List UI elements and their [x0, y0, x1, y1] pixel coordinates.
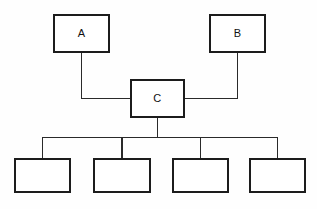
node-child-3-box[interactable] — [173, 159, 228, 192]
block-diagram: ABC — [0, 0, 317, 209]
node-c[interactable]: C — [131, 80, 184, 117]
node-layer: ABC — [15, 15, 305, 192]
node-child-1[interactable] — [15, 159, 70, 192]
edge-a-to-c — [82, 52, 132, 99]
node-child-3[interactable] — [173, 159, 228, 192]
node-child-2[interactable] — [94, 159, 150, 192]
node-a[interactable]: A — [54, 15, 109, 52]
node-child-1-box[interactable] — [15, 159, 70, 192]
diagram-canvas: ABC — [0, 0, 317, 209]
node-child-4-box[interactable] — [250, 159, 305, 192]
node-child-4[interactable] — [250, 159, 305, 192]
node-b[interactable]: B — [210, 15, 265, 52]
edge-b-to-c — [184, 52, 238, 99]
node-a-label: A — [78, 27, 86, 39]
node-child-2-box[interactable] — [94, 159, 150, 192]
node-c-label: C — [153, 92, 161, 104]
node-b-label: B — [234, 27, 242, 39]
